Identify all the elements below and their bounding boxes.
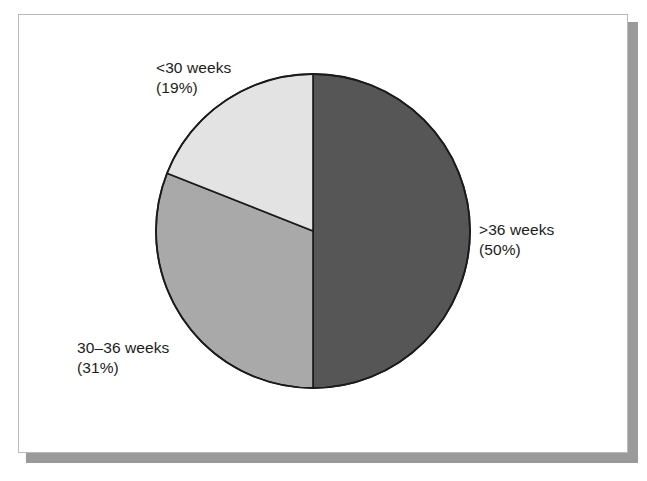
pie-label-gt36-percent: (50%): [479, 240, 554, 260]
pie-label-lt30: <30 weeks (19%): [156, 58, 231, 98]
figure-page: <30 weeks (19%) >36 weeks (50%) 30–36 we…: [0, 0, 647, 481]
pie-chart: <30 weeks (19%) >36 weeks (50%) 30–36 we…: [0, 0, 647, 481]
pie-label-lt30-percent: (19%): [156, 78, 231, 98]
pie-label-30-36-category: 30–36 weeks: [77, 338, 169, 358]
pie-label-gt36: >36 weeks (50%): [479, 220, 554, 260]
pie-label-30-36-percent: (31%): [77, 358, 169, 378]
pie-slice-gt36[interactable]: [313, 74, 470, 388]
pie-label-30-36: 30–36 weeks (31%): [77, 338, 169, 378]
pie-label-gt36-category: >36 weeks: [479, 220, 554, 240]
pie-label-lt30-category: <30 weeks: [156, 58, 231, 78]
